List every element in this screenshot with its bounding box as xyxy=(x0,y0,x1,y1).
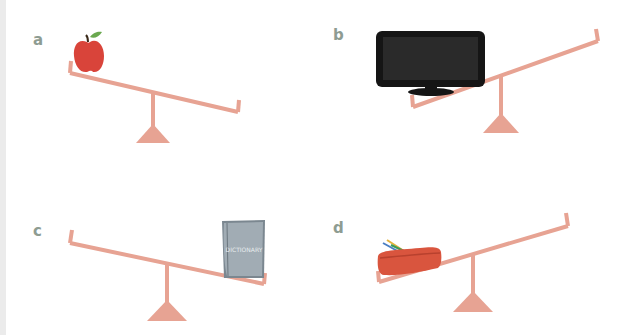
book-cover-text: DICTIONARY xyxy=(226,246,263,253)
panel-d xyxy=(378,213,568,312)
television-icon xyxy=(376,31,485,96)
panel-b xyxy=(376,29,598,133)
apple-icon xyxy=(74,32,104,72)
pencil-case-icon xyxy=(378,240,442,275)
panel-c: DICTIONARY xyxy=(70,220,265,321)
seesaw-a xyxy=(70,61,239,143)
book-icon: DICTIONARY xyxy=(222,220,265,278)
panel-a xyxy=(70,32,239,143)
seesaw-diagram: DICTIONARY xyxy=(0,0,631,335)
